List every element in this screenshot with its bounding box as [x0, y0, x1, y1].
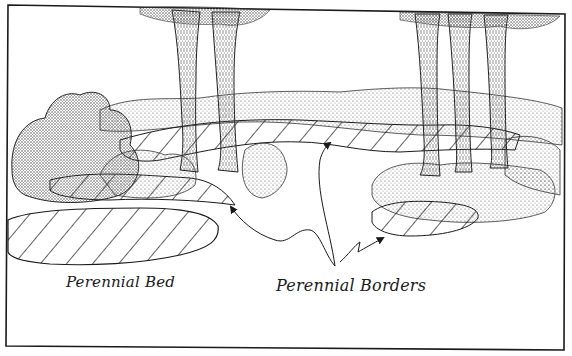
perennial-borders-label: Perennial Borders	[276, 276, 426, 295]
garden-illustration	[0, 0, 572, 356]
perennial-border-right	[372, 201, 478, 236]
perennial-bed	[8, 208, 218, 265]
perennial-bed-label: Perennial Bed	[66, 273, 175, 291]
arrow-right-border	[340, 238, 383, 262]
arrow-middle-border	[319, 143, 335, 266]
arrow-left-border	[231, 207, 335, 266]
